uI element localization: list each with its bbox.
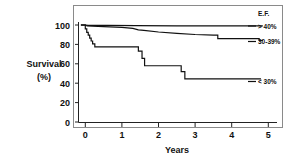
survival-curve-ef-30-39 — [81, 25, 263, 41]
legend-label-lt-30: < 30% — [258, 78, 277, 85]
y-tick-label-100: 100 — [55, 21, 70, 31]
x-tick-label-4: 4 — [229, 130, 234, 140]
y-tick-label-0: 0 — [65, 118, 70, 128]
y-axis-ticks — [75, 25, 79, 122]
x-tick-label-0: 0 — [83, 130, 88, 140]
legend-title: E.F. — [258, 10, 269, 17]
survival-curve-ef-gt-40 — [81, 25, 263, 26]
survival-curves — [81, 25, 263, 79]
y-tick-label-40: 40 — [60, 79, 70, 89]
x-tick-label-3: 3 — [193, 130, 198, 140]
x-axis-ticks — [85, 123, 268, 128]
y-tick-label-80: 80 — [60, 40, 70, 50]
kaplan-meier-chart: 100 80 60 40 20 0 0 1 2 3 4 5 Years Surv… — [0, 0, 295, 159]
legend-label-gt-40: > 40% — [258, 23, 277, 30]
x-tick-label-2: 2 — [156, 130, 161, 140]
plot-frame — [74, 6, 283, 128]
y-axis-title-line2: (%) — [37, 72, 51, 82]
x-tick-label-1: 1 — [119, 130, 124, 140]
legend: E.F. > 40% 30-39% < 30% — [258, 10, 281, 85]
x-axis-title: Years — [165, 145, 189, 155]
legend-label-30-39: 30-39% — [258, 38, 281, 45]
x-tick-label-5: 5 — [266, 130, 271, 140]
survival-curve-figure: 100 80 60 40 20 0 0 1 2 3 4 5 Years Surv… — [0, 0, 295, 159]
y-tick-label-20: 20 — [60, 98, 70, 108]
y-axis-title-line1: Survival — [26, 59, 61, 69]
